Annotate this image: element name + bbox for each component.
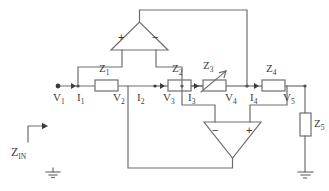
label-z5: Z5 xyxy=(314,118,324,129)
zin-indicator-arrow xyxy=(28,126,43,142)
current-arrow-i1 xyxy=(71,83,76,89)
opamp-a2-plus-sign: + xyxy=(246,124,252,136)
resistor-z5-body xyxy=(300,113,311,136)
opamp-a1-minus-sign: − xyxy=(152,31,158,43)
zin-indicator-arrowhead xyxy=(42,123,48,129)
label-i4: I4 xyxy=(250,92,257,103)
label-z2: Z2 xyxy=(172,63,182,74)
label-v1: V1 xyxy=(53,92,65,103)
label-i1: I1 xyxy=(77,92,84,103)
label-v3: V3 xyxy=(163,92,175,103)
node-dot-v2 xyxy=(153,84,156,87)
resistor-z4-body xyxy=(262,80,285,91)
label-zin: ZIN xyxy=(11,146,26,158)
input-terminal-dot xyxy=(56,84,61,89)
label-z3: Z3 xyxy=(203,60,213,71)
resistor-z3-body xyxy=(203,80,226,91)
opamp-a1-plus-sign: + xyxy=(118,31,124,43)
label-i3: I3 xyxy=(188,92,195,103)
current-arrow-i3 xyxy=(194,83,199,89)
opamp-a2-minus-sign: − xyxy=(212,124,218,136)
label-z1: Z1 xyxy=(99,63,109,74)
label-v2: V2 xyxy=(113,92,125,103)
label-v4: V4 xyxy=(225,92,237,103)
label-v5: V5 xyxy=(283,92,295,103)
circuit-diagram: + − − + Z1 Z2 Z3 Z4 Z5 V1 V2 V3 V4 V5 I1… xyxy=(0,0,329,191)
label-z4: Z4 xyxy=(266,63,276,74)
label-i2: I2 xyxy=(137,92,144,103)
resistor-z2-body xyxy=(168,80,191,91)
resistor-z1-body xyxy=(95,80,118,91)
current-arrow-i4 xyxy=(254,83,259,89)
current-arrow-i2 xyxy=(160,83,165,89)
